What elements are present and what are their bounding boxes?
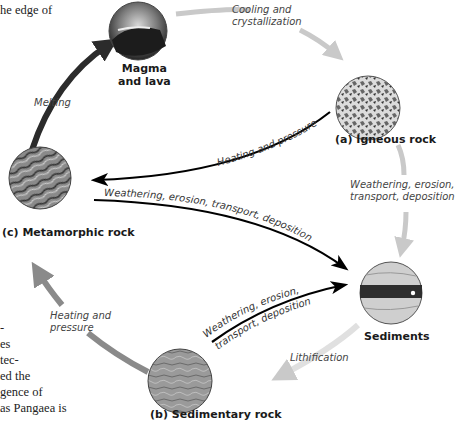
cooling-arrow-head: [300, 30, 336, 54]
igneous-weathering-label: Weathering, erosion, transport, depositi…: [350, 179, 455, 203]
magma-label-line1: Magma: [118, 62, 171, 75]
book-text-top: he edge of: [0, 2, 52, 18]
heating-igneous-to-metamorphic-arrow: [95, 112, 330, 180]
melting-label: Melting: [34, 97, 71, 109]
magma-circle: [109, 2, 167, 60]
book-text-line: as Pangaea is: [0, 400, 67, 416]
magma-label-line2: and lava: [118, 75, 171, 88]
sedimentary-label: (b) Sedimentary rock: [150, 408, 281, 421]
cooling-label: Cooling and crystallization: [232, 4, 302, 28]
metamorphic-circle: [9, 147, 71, 209]
heating-sed-arrow-top: [38, 272, 62, 305]
metamorphic-label: (c) Metamorphic rock: [2, 226, 135, 239]
lithification-label: Lithification: [290, 352, 349, 364]
book-text-line: es: [0, 336, 10, 352]
igneous-weathering-line1: Weathering, erosion,: [350, 179, 455, 191]
heating-igneous-label: Heating and pressure: [216, 117, 319, 168]
igneous-label: (a) Igneous rock: [335, 133, 436, 146]
lithification-arrow: [282, 325, 358, 375]
igneous-circle: [336, 76, 400, 140]
igneous-weathering-arrow-bottom: [402, 212, 406, 248]
book-text-line: -: [0, 320, 4, 336]
heating-sed-label: Heating and pressure: [50, 310, 111, 334]
heating-sed-line1: Heating and: [50, 310, 111, 322]
igneous-weathering-arrow-top: [398, 145, 404, 175]
igneous-weathering-line2: transport, deposition: [350, 191, 455, 203]
heating-sed-line2: pressure: [50, 322, 111, 334]
sedimentary-circle: [148, 349, 212, 413]
sediments-label: Sediments: [364, 330, 430, 343]
magma-label: Magma and lava: [118, 62, 171, 88]
book-text-line: gence of: [0, 384, 43, 400]
rock-cycle-diagram: Heating and pressure Weathering, erosion…: [0, 0, 455, 423]
heating-sed-arrow-bottom: [88, 333, 148, 372]
svg-text:Heating and pressure: Heating and pressure: [216, 117, 319, 168]
cooling-label-line2: crystallization: [232, 16, 302, 28]
book-text-line: ed the: [0, 368, 30, 384]
book-text-line: tec-: [0, 352, 19, 368]
sediments-circle: [360, 262, 422, 324]
cooling-label-line1: Cooling and: [232, 4, 302, 16]
